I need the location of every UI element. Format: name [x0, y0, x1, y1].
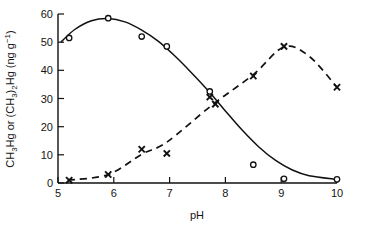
x-tick-label: 5 [55, 187, 61, 199]
data-point-cross [334, 84, 340, 90]
y-tick-label: 10 [41, 149, 53, 161]
data-point-cross [139, 146, 145, 152]
y-axis-title: CH3Hg or (CH3)2Hg (ng g−1) [3, 30, 19, 167]
x-tick-label: 8 [222, 187, 228, 199]
data-point-cross [207, 94, 213, 100]
y-title-seg5: ) [4, 30, 16, 34]
data-point-circle [281, 176, 286, 181]
data-point-circle [207, 89, 212, 94]
y-tick-label: 0 [47, 177, 53, 189]
y-tick-label: 30 [41, 93, 53, 105]
x-tick-labels: 5 6 7 8 9 10 [55, 187, 343, 199]
data-series-layer [61, 16, 340, 184]
x-tick-label: 6 [111, 187, 117, 199]
y-tick-label: 20 [41, 121, 53, 133]
data-point-circle [66, 35, 71, 40]
series-line-1 [68, 46, 337, 180]
series-markers-0 [66, 16, 339, 183]
figure-container: 0 10 20 30 40 50 60 5 6 7 8 9 10 pH [0, 0, 365, 230]
y-tick-label: 60 [41, 8, 53, 20]
data-point-cross [281, 43, 287, 49]
y-title-seg4: Hg (ng g [4, 43, 16, 85]
y-tick-label: 50 [41, 36, 53, 48]
y-tick-labels: 0 10 20 30 40 50 60 [41, 8, 53, 189]
x-tick-label: 10 [331, 187, 343, 199]
y-tick-label: 40 [41, 64, 53, 76]
x-tick-label: 7 [167, 187, 173, 199]
y-title-seg2: Hg or (CH [4, 98, 16, 148]
data-point-circle [334, 177, 339, 182]
chart-canvas: 0 10 20 30 40 50 60 5 6 7 8 9 10 pH [0, 0, 365, 230]
svg-text:CH3Hg or (CH3)2Hg (ng g−1): CH3Hg or (CH3)2Hg (ng g−1) [3, 30, 19, 167]
x-tick-label: 9 [278, 187, 284, 199]
data-point-circle [251, 162, 256, 167]
y-title-seg1: CH [4, 152, 16, 168]
series-markers-1 [66, 43, 340, 183]
data-point-circle [106, 16, 111, 21]
series-line-0 [61, 18, 337, 179]
x-tick-marks [58, 177, 337, 183]
data-point-circle [139, 34, 144, 39]
data-point-cross [164, 150, 170, 156]
data-point-circle [164, 44, 169, 49]
x-axis-title: pH [190, 209, 204, 221]
